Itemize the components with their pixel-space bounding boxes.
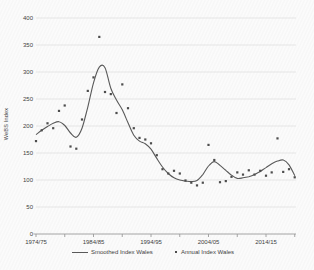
annual-index-point	[259, 170, 261, 172]
y-tick-label: 100	[23, 177, 34, 183]
y-tick-label: 300	[23, 69, 34, 75]
annual-index-point	[156, 154, 158, 156]
y-tick-label: 200	[23, 123, 34, 129]
x-tick-label: 1974/75	[25, 239, 47, 245]
annual-index-point	[110, 93, 112, 95]
x-tick-label: 1984/85	[83, 239, 105, 245]
annual-index-point	[41, 129, 43, 131]
annual-index-point	[190, 182, 192, 184]
chart-canvas: 0501001502002503003504001974/751984/8519…	[0, 0, 314, 270]
annual-index-point	[253, 174, 255, 176]
annual-index-point	[265, 175, 267, 177]
annual-index-point	[271, 171, 273, 173]
annual-index-point	[282, 171, 284, 173]
legend-entry-smoothed: Smoothed Index Wales	[72, 249, 153, 255]
annual-index-point	[207, 144, 209, 146]
annual-point-swatch-icon	[175, 251, 177, 253]
y-tick-label: 250	[23, 96, 34, 102]
annual-index-point	[133, 127, 135, 129]
annual-index-point	[69, 145, 71, 147]
annual-index-point	[248, 169, 250, 171]
legend-label-smoothed: Smoothed Index Wales	[91, 249, 153, 255]
annual-index-point	[127, 107, 129, 109]
smoothed-line-swatch-icon	[72, 252, 88, 253]
annual-index-point	[121, 83, 123, 85]
y-axis-title: WeBS Index	[3, 96, 9, 152]
annual-index-point	[52, 127, 54, 129]
annual-index-point	[219, 181, 221, 183]
annual-index-point	[64, 104, 66, 106]
chart-legend: Smoothed Index Wales Annual Index Wales	[0, 249, 306, 255]
annual-index-point	[58, 110, 60, 112]
x-tick-label: 2014/15	[255, 239, 277, 245]
x-tick-label: 1994/95	[140, 239, 162, 245]
y-tick-label: 50	[26, 204, 33, 210]
annual-index-point	[179, 172, 181, 174]
y-tick-label: 350	[23, 42, 34, 48]
legend-entry-annual: Annual Index Wales	[153, 249, 234, 255]
annual-index-point	[225, 180, 227, 182]
webs-index-chart: 0501001502002503003504001974/751984/8519…	[0, 0, 314, 270]
annual-index-point	[161, 168, 163, 170]
annual-index-point	[35, 140, 37, 142]
annual-index-point	[184, 179, 186, 181]
y-tick-label: 400	[23, 15, 34, 21]
annual-index-point	[202, 182, 204, 184]
annual-index-point	[75, 148, 77, 150]
annual-index-point	[276, 137, 278, 139]
y-tick-label: 150	[23, 150, 34, 156]
annual-index-point	[81, 118, 83, 120]
annual-index-point	[144, 138, 146, 140]
annual-index-point	[294, 176, 296, 178]
annual-index-point	[288, 168, 290, 170]
annual-index-point	[230, 176, 232, 178]
annual-index-point	[87, 90, 89, 92]
annual-index-point	[236, 171, 238, 173]
y-tick-label: 0	[30, 231, 34, 237]
legend-label-annual: Annual Index Wales	[181, 249, 234, 255]
annual-index-point	[98, 36, 100, 38]
annual-index-point	[167, 172, 169, 174]
annual-index-point	[92, 76, 94, 78]
annual-index-point	[104, 91, 106, 93]
annual-index-point	[173, 170, 175, 172]
annual-index-point	[242, 174, 244, 176]
x-tick-label: 2004/05	[198, 239, 220, 245]
smoothed-index-line	[36, 65, 295, 181]
annual-index-point	[196, 184, 198, 186]
annual-index-point	[213, 159, 215, 161]
annual-index-point	[46, 122, 48, 124]
annual-index-point	[150, 142, 152, 144]
annual-index-point	[138, 137, 140, 139]
annual-index-point	[115, 112, 117, 114]
